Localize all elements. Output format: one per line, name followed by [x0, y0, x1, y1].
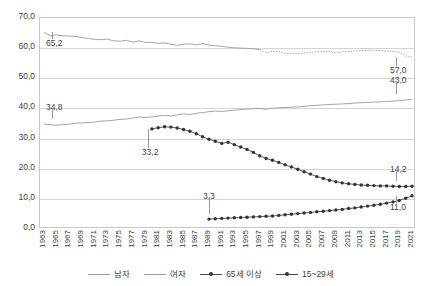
legend-item-label: 15~29세 — [302, 269, 334, 279]
series-marker — [372, 184, 375, 187]
x-axis-tick-label: 1975 — [115, 230, 123, 248]
x-axis-tick-label: 2003 — [293, 230, 301, 248]
series-marker — [214, 217, 217, 220]
x-axis-tick-label: 2015 — [369, 230, 377, 248]
y-axis-tick-label: 30,0 — [2, 133, 35, 142]
chart-legend: 남자여자65세 이상15~29세 — [0, 264, 422, 284]
series-marker — [252, 215, 255, 218]
x-axis-tick-label: 1993 — [229, 230, 237, 248]
series-marker — [366, 184, 369, 187]
series-marker — [283, 163, 286, 166]
x-axis-tick-label: 1979 — [141, 230, 149, 248]
legend-swatch-icon — [88, 270, 110, 279]
series-marker — [271, 214, 274, 217]
legend-item-label: 65세 이상 — [226, 269, 262, 279]
series-marker — [258, 215, 261, 218]
series-marker — [226, 141, 229, 144]
series-marker — [271, 159, 274, 162]
data-point-label: 33,2 — [142, 148, 159, 157]
x-axis-tick-label: 2017 — [382, 230, 390, 248]
series-marker — [207, 138, 210, 141]
series-marker — [360, 205, 363, 208]
x-axis-tick-label: 1971 — [90, 230, 98, 248]
line-chart: 70,060,050,040,030,020,010,00,0 65,234,8… — [0, 0, 422, 286]
series-marker — [322, 210, 325, 213]
series-marker — [226, 216, 229, 219]
y-axis-tick-label: 0,0 — [2, 223, 35, 232]
series-marker — [322, 177, 325, 180]
series-marker — [277, 161, 280, 164]
series-marker — [201, 135, 204, 138]
series-marker — [214, 140, 217, 143]
y-axis-tick-label: 70,0 — [2, 12, 35, 21]
series-marker — [410, 194, 413, 197]
legend-swatch-icon — [276, 270, 298, 279]
series-marker — [207, 217, 210, 220]
series-line — [152, 127, 412, 187]
x-axis-tick-label: 1967 — [64, 230, 72, 248]
series-marker — [302, 170, 305, 173]
legend-swatch-icon — [200, 270, 222, 279]
x-axis-tick-label: 1985 — [179, 230, 187, 248]
series-marker — [252, 151, 255, 154]
series-marker — [315, 210, 318, 213]
series-marker — [239, 216, 242, 219]
data-point-label: 34,8 — [46, 103, 63, 112]
series-marker — [150, 127, 153, 130]
series-marker — [328, 209, 331, 212]
legend-item[interactable]: 65세 이상 — [200, 269, 262, 279]
series-marker — [258, 154, 261, 157]
series-marker — [347, 182, 350, 185]
x-axis-tick-label: 1995 — [242, 230, 250, 248]
label-leader-line — [396, 170, 397, 181]
x-axis-tick-label: 1989 — [204, 230, 212, 248]
x-axis-tick-label: 2005 — [305, 230, 313, 248]
label-leader-line — [52, 108, 53, 119]
series-marker — [353, 206, 356, 209]
series-line — [44, 33, 260, 50]
data-point-label: 43,0 — [390, 76, 407, 85]
series-marker — [264, 157, 267, 160]
series-marker — [182, 128, 185, 131]
label-leader-line — [396, 81, 397, 94]
label-leader-line — [396, 57, 397, 66]
series-marker — [290, 165, 293, 168]
series-marker — [220, 142, 223, 145]
series-marker — [277, 214, 280, 217]
series-marker — [328, 179, 331, 182]
x-axis-tick-label: 1983 — [166, 230, 174, 248]
data-point-label: 14,2 — [390, 165, 407, 174]
legend-item[interactable]: 15~29세 — [276, 269, 334, 279]
series-marker — [341, 208, 344, 211]
series-line — [209, 196, 412, 219]
series-marker — [157, 126, 160, 129]
series-marker — [245, 148, 248, 151]
series-marker — [398, 185, 401, 188]
series-marker — [372, 204, 375, 207]
series-marker — [220, 217, 223, 220]
x-axis-tick-label: 1999 — [267, 230, 275, 248]
legend-item-label: 남자 — [114, 269, 130, 279]
x-axis-tick-label: 1965 — [52, 230, 60, 248]
series-marker — [163, 125, 166, 128]
legend-item[interactable]: 남자 — [88, 269, 130, 279]
y-axis-tick-label: 40,0 — [2, 102, 35, 111]
series-marker — [315, 175, 318, 178]
series-marker — [245, 216, 248, 219]
series-marker — [296, 168, 299, 171]
series-marker — [366, 204, 369, 207]
legend-item[interactable]: 여자 — [144, 269, 186, 279]
series-marker — [233, 143, 236, 146]
series-marker — [353, 183, 356, 186]
data-point-label: 57,0 — [390, 66, 407, 75]
x-axis-tick-label: 2021 — [407, 230, 415, 248]
x-axis-tick-label: 2007 — [318, 230, 326, 248]
series-marker — [379, 184, 382, 187]
label-leader-line — [148, 129, 149, 148]
series-marker — [239, 145, 242, 148]
x-axis-tick-label: 2013 — [356, 230, 364, 248]
series-marker — [404, 197, 407, 200]
series-marker — [233, 216, 236, 219]
x-axis-tick-label: 1963 — [39, 230, 47, 248]
series-marker — [264, 215, 267, 218]
